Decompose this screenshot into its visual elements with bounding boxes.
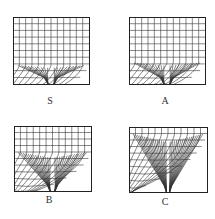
- panel-a: [129, 17, 206, 87]
- panel-c: [129, 127, 208, 195]
- mesh-diagram-a: [129, 17, 206, 87]
- panel-label-b: B: [39, 194, 59, 205]
- mesh-diagram-b: [14, 126, 92, 194]
- panel-label-c: C: [155, 196, 175, 207]
- panel-b: [14, 126, 92, 194]
- mesh-diagram-c: [129, 127, 208, 195]
- panel-label-a: A: [155, 95, 175, 106]
- mesh-diagram-s: [13, 17, 90, 87]
- panel-label-s: S: [40, 95, 60, 106]
- panel-s: [13, 17, 90, 87]
